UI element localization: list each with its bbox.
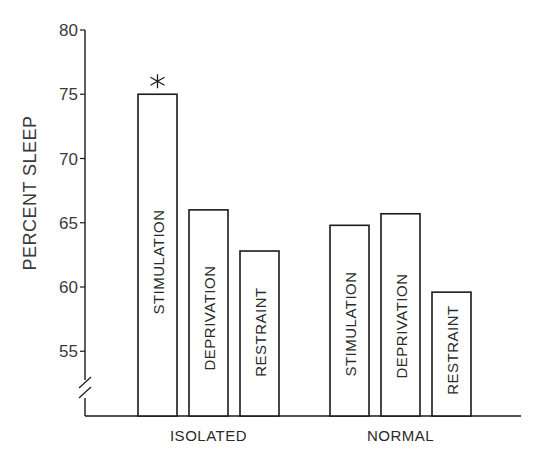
y-tick-label: 55	[59, 342, 78, 361]
bars: STIMULATIONDEPRIVATIONRESTRAINTSTIMULATI…	[138, 74, 471, 416]
group-label-normal: NORMAL	[367, 427, 434, 444]
y-tick-label: 75	[59, 85, 78, 104]
bar-label: RESTRAINT	[444, 305, 461, 395]
bar-label: RESTRAINT	[252, 287, 269, 377]
significance-asterisk	[151, 74, 165, 88]
bar-chart: 556065707580 STIMULATIONDEPRIVATIONRESTR…	[0, 0, 544, 460]
bar-label: STIMULATION	[150, 209, 167, 314]
y-tick-label: 65	[59, 214, 78, 233]
bar-group-normal: STIMULATIONDEPRIVATIONRESTRAINT	[330, 214, 471, 416]
bar-label: DEPRIVATION	[201, 266, 218, 371]
y-tick-label: 60	[59, 278, 78, 297]
bar-group-isolated: STIMULATIONDEPRIVATIONRESTRAINT	[138, 74, 279, 416]
y-axis-title: PERCENT SLEEP	[20, 115, 40, 270]
y-tick-label: 70	[59, 150, 78, 169]
axis-break-mark	[79, 387, 91, 398]
bar-label: STIMULATION	[342, 271, 359, 376]
group-label-isolated: ISOLATED	[170, 427, 247, 444]
y-tick-label: 80	[59, 21, 78, 40]
group-labels: ISOLATEDNORMAL	[170, 427, 434, 444]
bar-label: DEPRIVATION	[393, 274, 410, 379]
y-axis: 556065707580	[59, 21, 91, 416]
